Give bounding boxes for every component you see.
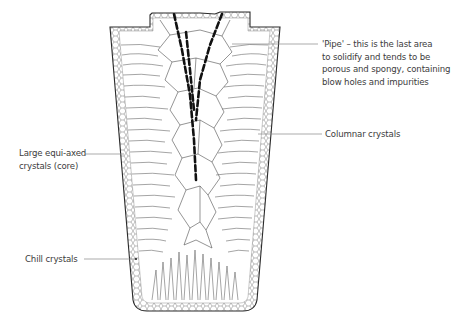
pipe-label-line: porous and spongy, containing: [322, 63, 450, 76]
chill-crystals-label: Chill crystals: [25, 253, 78, 266]
pipe-label-line: to solidify and tends to be: [322, 51, 450, 64]
pipe-label-line: 'Pipe' – this is the last area: [322, 38, 450, 51]
chill-leader-dot: [135, 258, 137, 260]
interior-region: [119, 14, 270, 303]
pipe-label: 'Pipe' – this is the last area to solidi…: [322, 38, 450, 88]
columnar-crystals-label: Columnar crystals: [325, 128, 400, 141]
equiaxed-crystals-label: Large equi-axed crystals (core): [19, 147, 86, 172]
pipe-label-line: blow holes and impurities: [322, 76, 450, 89]
equiaxed-label-line: Large equi-axed: [19, 147, 86, 160]
equiaxed-label-line: crystals (core): [19, 160, 86, 173]
